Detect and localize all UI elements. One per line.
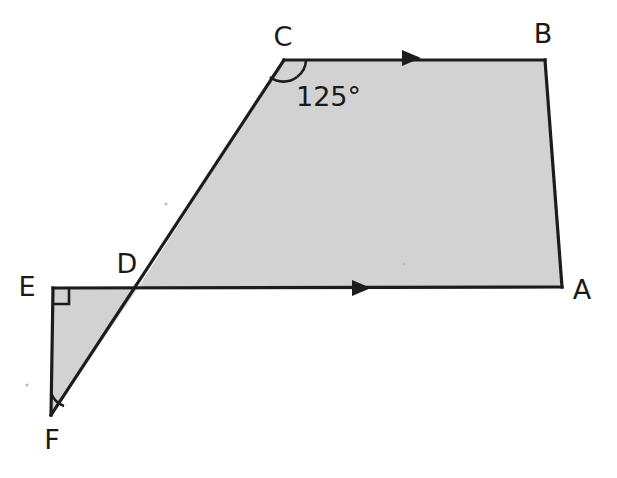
segment-ae: [53, 287, 562, 288]
vertex-label-e: E: [18, 271, 35, 302]
diagram-canvas: A B C D E F 125°: [0, 0, 617, 478]
angle-measure-label-c: 125°: [296, 81, 361, 112]
scan-speck: [402, 262, 405, 265]
vertex-label-a: A: [573, 274, 592, 305]
scan-speck: [164, 202, 167, 205]
vertex-label-d: D: [117, 248, 138, 279]
vertex-label-f: F: [44, 424, 60, 455]
geometry-figure: A B C D E F 125°: [0, 0, 617, 478]
scan-speck: [25, 383, 28, 386]
vertex-label-c: C: [274, 21, 293, 52]
vertex-label-b: B: [534, 18, 553, 49]
